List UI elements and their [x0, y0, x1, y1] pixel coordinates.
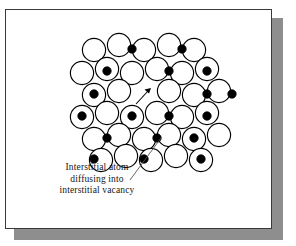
caption-line-3: interstitial vacancy	[22, 185, 172, 197]
host-atom	[132, 127, 155, 150]
lattice-diagram	[6, 10, 273, 230]
host-atom	[207, 79, 230, 102]
figure-caption: Interstitial atom diffusing into interst…	[22, 162, 172, 197]
interstitial-atom	[203, 112, 211, 120]
host-atom	[207, 123, 230, 146]
host-atom	[82, 127, 105, 150]
host-atom	[107, 79, 130, 102]
interstitial-atom	[78, 112, 86, 120]
interstitial-atom	[90, 90, 98, 98]
caption-line-2: diffusing into	[22, 174, 172, 186]
interstitial-atom	[178, 45, 186, 53]
host-atom	[70, 61, 93, 84]
interstitial-atom	[203, 90, 211, 98]
diffusion-arrow-icon	[136, 88, 151, 104]
host-atom	[157, 123, 180, 146]
host-atom	[145, 101, 168, 124]
interstitial-atom	[153, 134, 161, 142]
interstitial-atom	[128, 45, 136, 53]
host-atom	[157, 79, 180, 102]
interstitial-atom	[128, 112, 136, 120]
interstitial-atom	[197, 155, 205, 163]
interstitial-atom	[203, 67, 211, 75]
caption-line-1: Interstitial atom	[22, 162, 172, 174]
host-atom	[107, 123, 130, 146]
interstitial-atom	[165, 67, 173, 75]
figure-frame: Interstitial atom diffusing into interst…	[5, 9, 272, 229]
host-atom	[157, 33, 180, 56]
host-atom	[95, 101, 118, 124]
interstitial-atom	[228, 90, 236, 98]
interstitial-atom	[103, 67, 111, 75]
interstitial-atom	[103, 134, 111, 142]
host-atom	[107, 33, 130, 56]
interstitial-atom	[190, 134, 198, 142]
host-atom-group	[70, 33, 230, 171]
interstitial-atom	[165, 112, 173, 120]
